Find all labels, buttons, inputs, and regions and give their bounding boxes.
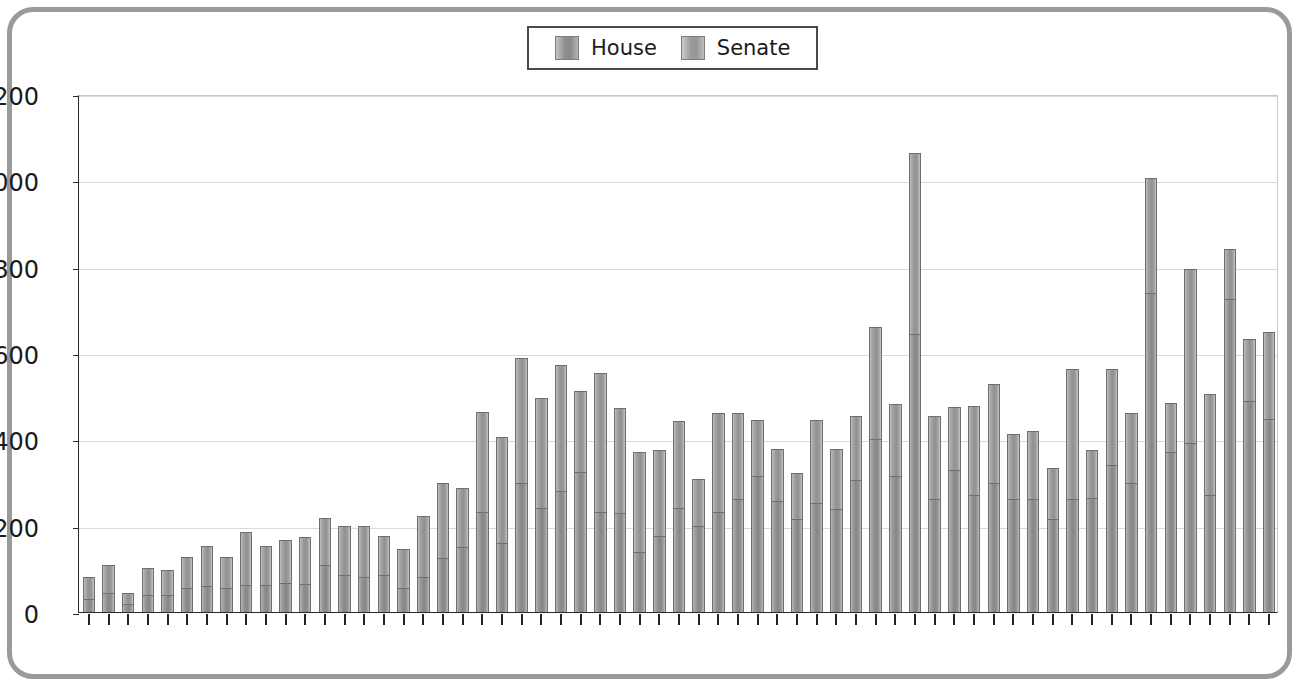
bar-1985[interactable] — [712, 413, 725, 612]
x-tick-mark — [108, 614, 110, 625]
bar-2005[interactable] — [1106, 369, 1119, 612]
x-tick-mark — [127, 614, 129, 625]
bar-segment-senate — [791, 473, 804, 520]
bar-1984[interactable] — [692, 479, 705, 612]
bar-1965[interactable] — [319, 518, 332, 612]
bar-1988[interactable] — [771, 449, 784, 612]
bar-1956[interactable] — [142, 568, 155, 612]
bar-1968[interactable] — [378, 536, 391, 612]
bar-1974[interactable] — [496, 437, 509, 612]
bar-segment-house — [968, 495, 981, 612]
bar-2010[interactable] — [1204, 394, 1217, 612]
bar-1975[interactable] — [515, 358, 528, 612]
bar-1996[interactable] — [928, 416, 941, 612]
bar-1983[interactable] — [673, 421, 686, 612]
x-tick-mark — [619, 614, 621, 625]
bar-1987[interactable] — [751, 420, 764, 612]
bar-1994[interactable] — [889, 404, 902, 612]
bar-1958[interactable] — [181, 557, 194, 612]
bar-2011[interactable] — [1224, 249, 1237, 612]
bar-2000[interactable] — [1007, 434, 1020, 612]
bar-1973[interactable] — [476, 412, 489, 612]
bar-segment-house — [1007, 499, 1020, 612]
bar-segment-house — [712, 512, 725, 612]
bar-segment-senate — [476, 412, 489, 512]
bar-segment-senate — [496, 437, 509, 543]
bar-1991[interactable] — [830, 449, 843, 612]
bar-1961[interactable] — [240, 532, 253, 612]
bar-segment-senate — [102, 565, 115, 593]
bar-segment-senate — [928, 416, 941, 499]
bar-segment-house — [555, 491, 568, 612]
x-tick-mark — [462, 614, 464, 625]
bar-2004[interactable] — [1086, 450, 1099, 612]
bar-segment-house — [437, 558, 450, 612]
bar-2013[interactable] — [1263, 332, 1276, 612]
bar-2002[interactable] — [1047, 468, 1060, 612]
bar-2006[interactable] — [1125, 413, 1138, 612]
bar-1953[interactable] — [83, 577, 96, 612]
bar-segment-senate — [909, 153, 922, 333]
bar-1986[interactable] — [732, 413, 745, 612]
bar-1976[interactable] — [535, 398, 548, 612]
bar-2003[interactable] — [1066, 369, 1079, 612]
bar-1977[interactable] — [555, 365, 568, 612]
bar-segment-house — [1184, 443, 1197, 612]
bar-segment-senate — [653, 450, 666, 536]
bar-1997[interactable] — [948, 407, 961, 612]
x-tick-mark — [324, 614, 326, 625]
bar-2001[interactable] — [1027, 431, 1040, 612]
bar-1999[interactable] — [988, 384, 1001, 612]
x-tick-mark — [1071, 614, 1073, 625]
x-tick-mark — [1130, 614, 1132, 625]
x-tick-mark — [344, 614, 346, 625]
x-tick-mark — [835, 614, 837, 625]
bar-1993[interactable] — [869, 327, 882, 612]
bar-2007[interactable] — [1145, 178, 1158, 612]
x-tick-mark — [1052, 614, 1054, 625]
bar-1978[interactable] — [574, 391, 587, 612]
x-tick-mark — [167, 614, 169, 625]
bar-1963[interactable] — [279, 539, 292, 612]
bar-segment-senate — [732, 413, 745, 499]
bar-1979[interactable] — [594, 373, 607, 612]
bar-1955[interactable] — [122, 593, 135, 612]
bar-1964[interactable] — [299, 537, 312, 612]
bar-1969[interactable] — [397, 549, 410, 612]
bar-1971[interactable] — [437, 483, 450, 613]
x-tick-mark — [1268, 614, 1270, 625]
bar-segment-house — [1086, 498, 1099, 612]
bar-2008[interactable] — [1165, 403, 1178, 612]
x-tick-mark — [363, 614, 365, 625]
bar-1962[interactable] — [260, 546, 273, 612]
bar-1995[interactable] — [909, 153, 922, 612]
x-tick-mark — [186, 614, 188, 625]
bar-1960[interactable] — [220, 557, 233, 612]
x-tick-mark — [422, 614, 424, 625]
bar-1998[interactable] — [968, 406, 981, 612]
bar-1967[interactable] — [358, 526, 371, 612]
bar-segment-house — [594, 512, 607, 612]
bar-segment-house — [653, 536, 666, 612]
bar-1982[interactable] — [653, 450, 666, 612]
y-tick-label: 0 — [0, 601, 39, 629]
bar-1981[interactable] — [633, 452, 646, 612]
x-tick-mark — [481, 614, 483, 625]
bar-1954[interactable] — [102, 565, 115, 612]
bar-1966[interactable] — [338, 526, 351, 612]
x-tick-mark — [1012, 614, 1014, 625]
bar-1959[interactable] — [201, 546, 214, 612]
bar-segment-senate — [1027, 431, 1040, 499]
y-tick-label: 800 — [0, 256, 39, 284]
bar-1957[interactable] — [161, 570, 174, 612]
bar-1992[interactable] — [850, 416, 863, 612]
bar-2012[interactable] — [1243, 339, 1256, 612]
bar-1972[interactable] — [456, 488, 469, 612]
bar-segment-senate — [279, 540, 292, 583]
bar-1980[interactable] — [614, 408, 627, 612]
bar-2009[interactable] — [1184, 269, 1197, 612]
bar-1970[interactable] — [417, 516, 430, 612]
bar-1989[interactable] — [791, 473, 804, 612]
bar-1990[interactable] — [810, 420, 823, 612]
bar-segment-house — [889, 476, 902, 612]
